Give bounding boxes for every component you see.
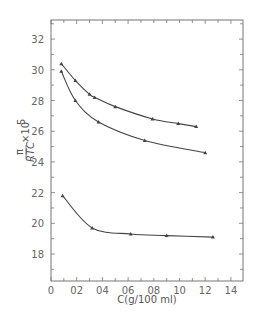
y-tick-label: 32 — [31, 34, 44, 45]
x-tick-label: 14 — [225, 285, 238, 296]
plot-frame — [51, 20, 243, 281]
y-axis-title-exponent: 5 — [16, 119, 27, 125]
data-curves — [61, 64, 213, 237]
x-tick-label: 0 — [48, 285, 54, 296]
x-axis-title: C(g/100 ml) — [117, 294, 176, 305]
curve-upper — [61, 64, 196, 127]
axis-ticks — [51, 20, 243, 281]
x-tick-label: 04 — [96, 285, 109, 296]
y-axis-title-numerator: π — [14, 149, 25, 155]
y-axis-title-denominator: RTC — [25, 142, 36, 162]
y-tick-label: 20 — [31, 218, 44, 229]
y-tick-label: 28 — [31, 96, 44, 107]
curve-middle — [61, 71, 205, 152]
chart: 002040608101214 1820222426283032 C(g/100… — [0, 0, 256, 317]
data-point-marker — [61, 194, 65, 198]
y-axis-title: π RTC ×10 5 — [14, 119, 36, 162]
x-tick-label: 12 — [199, 285, 212, 296]
x-tick-label: 02 — [70, 285, 83, 296]
data-point-marker — [59, 69, 63, 73]
y-tick-label: 22 — [31, 188, 44, 199]
y-tick-label: 30 — [31, 65, 44, 76]
data-point-marker — [59, 62, 63, 66]
y-tick-label: 18 — [31, 249, 44, 260]
plot-border — [51, 20, 243, 281]
y-tick-label: 26 — [31, 126, 44, 137]
curve-lower — [63, 196, 213, 237]
